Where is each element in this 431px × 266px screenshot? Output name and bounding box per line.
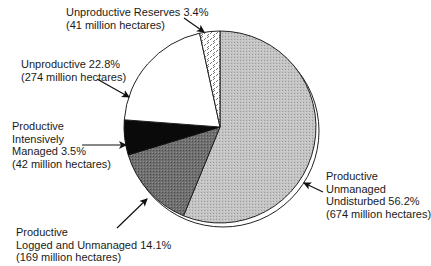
label-undisturbed-line1: Productive bbox=[326, 170, 431, 183]
label-undisturbed: Productive Unmanaged Undisturbed 56.2% (… bbox=[326, 170, 431, 220]
label-undisturbed-line3: Undisturbed 56.2% bbox=[326, 195, 431, 208]
label-intensive-line4: (42 million hectares) bbox=[12, 158, 111, 171]
label-reserves-line1: Unproductive Reserves 3.4% bbox=[66, 6, 208, 19]
label-intensive-line1: Productive bbox=[12, 120, 111, 133]
label-logged: Productive Logged and Unmanaged 14.1% (1… bbox=[16, 226, 171, 264]
label-intensive: Productive Intensively Managed 3.5% (42 … bbox=[12, 120, 111, 170]
label-logged-line1: Productive bbox=[16, 226, 171, 239]
label-undisturbed-line4: (674 million hectares) bbox=[326, 208, 431, 221]
label-unproductive: Unproductive 22.8% (274 million hectares… bbox=[21, 58, 126, 83]
label-intensive-line3: Managed 3.5% bbox=[12, 145, 111, 158]
arrow-logged bbox=[117, 199, 147, 228]
pie-slices bbox=[124, 31, 316, 223]
label-logged-line2: Logged and Unmanaged 14.1% bbox=[16, 239, 171, 252]
label-reserves: Unproductive Reserves 3.4% (41 million h… bbox=[66, 6, 208, 31]
arrow-undisturbed bbox=[304, 183, 323, 192]
label-intensive-line2: Intensively bbox=[12, 133, 111, 146]
label-logged-line3: (169 million hectares) bbox=[16, 251, 171, 264]
label-unproductive-line2: (274 million hectares) bbox=[21, 71, 126, 84]
label-undisturbed-line2: Unmanaged bbox=[326, 183, 431, 196]
label-reserves-line2: (41 million hectares) bbox=[66, 19, 208, 32]
label-unproductive-line1: Unproductive 22.8% bbox=[21, 58, 126, 71]
